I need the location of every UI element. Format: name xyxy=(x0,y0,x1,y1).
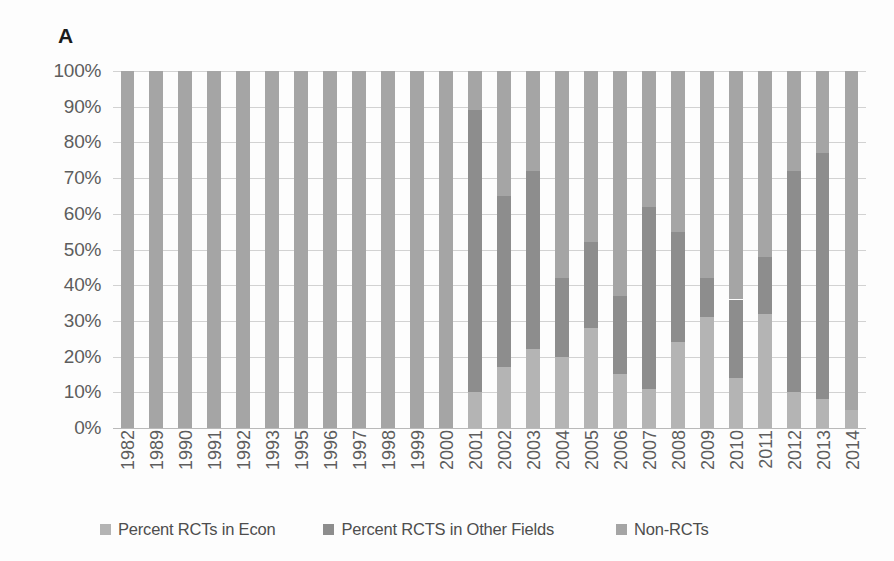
bar-column[interactable] xyxy=(410,71,424,428)
bar-segment xyxy=(497,71,511,196)
bar-column[interactable] xyxy=(207,71,221,428)
bar-series-container xyxy=(113,71,866,428)
bar-column[interactable] xyxy=(758,71,772,428)
bar-segment xyxy=(642,389,656,428)
bar-segment xyxy=(439,71,453,428)
bar-segment xyxy=(642,207,656,389)
bar-segment xyxy=(613,296,627,375)
bar-segment xyxy=(526,171,540,350)
y-axis-tick-label: 80% xyxy=(0,131,108,153)
bar-column[interactable] xyxy=(613,71,627,428)
bar-segment xyxy=(294,71,308,428)
bar-segment xyxy=(816,153,830,399)
x-axis-tick-label: 1989 xyxy=(147,430,168,470)
y-axis-tick-label: 10% xyxy=(0,381,108,403)
gridline xyxy=(113,428,866,429)
plot-area xyxy=(113,71,866,428)
bar-column[interactable] xyxy=(178,71,192,428)
bar-segment xyxy=(265,71,279,428)
bar-column[interactable] xyxy=(294,71,308,428)
bar-column[interactable] xyxy=(149,71,163,428)
bar-column[interactable] xyxy=(671,71,685,428)
bar-segment xyxy=(178,71,192,428)
x-axis-tick-label: 2001 xyxy=(466,430,487,470)
x-axis-tick-label: 1992 xyxy=(234,430,255,470)
bar-segment xyxy=(381,71,395,428)
bar-segment xyxy=(526,349,540,428)
y-axis-tick-labels: 100%90%80%70%60%50%40%30%20%10%0% xyxy=(0,0,108,561)
bar-column[interactable] xyxy=(642,71,656,428)
x-axis-tick-label: 1995 xyxy=(292,430,313,470)
x-axis-tick-label: 1996 xyxy=(321,430,342,470)
bar-segment xyxy=(729,71,743,299)
bar-column[interactable] xyxy=(845,71,859,428)
bar-segment xyxy=(410,71,424,428)
bar-column[interactable] xyxy=(468,71,482,428)
bar-column[interactable] xyxy=(121,71,135,428)
y-axis-tick-label: 20% xyxy=(0,346,108,368)
y-axis-tick-label: 90% xyxy=(0,96,108,118)
x-axis-tick-label: 2003 xyxy=(524,430,545,470)
legend-swatch-econ xyxy=(100,524,111,535)
bar-segment xyxy=(787,171,801,392)
x-axis-tick-label: 2010 xyxy=(727,430,748,470)
bar-column[interactable] xyxy=(729,71,743,428)
x-axis-tick-label: 2012 xyxy=(785,430,806,470)
y-axis-tick-label: 70% xyxy=(0,167,108,189)
y-axis-tick-label: 60% xyxy=(0,203,108,225)
bar-segment xyxy=(584,71,598,242)
legend-label: Percent RCTs in Econ xyxy=(118,520,275,539)
bar-segment xyxy=(729,378,743,428)
bar-segment xyxy=(816,399,830,428)
legend-item[interactable]: Percent RCTS in Other Fields xyxy=(323,520,554,539)
legend-item[interactable]: Non-RCTs xyxy=(616,520,709,539)
bar-segment xyxy=(787,71,801,171)
bar-column[interactable] xyxy=(700,71,714,428)
bar-column[interactable] xyxy=(555,71,569,428)
x-axis-tick-label: 2004 xyxy=(553,430,574,470)
bar-segment xyxy=(758,257,772,314)
x-axis-tick-label: 2013 xyxy=(814,430,835,470)
legend-label: Percent RCTS in Other Fields xyxy=(341,520,554,539)
bar-column[interactable] xyxy=(497,71,511,428)
x-axis-tick-label: 2000 xyxy=(437,430,458,470)
x-axis-tick-label: 1990 xyxy=(176,430,197,470)
bar-segment xyxy=(642,71,656,207)
y-axis-tick-label: 100% xyxy=(0,60,108,82)
bar-segment xyxy=(468,392,482,428)
bar-column[interactable] xyxy=(439,71,453,428)
legend-label: Non-RCTs xyxy=(634,520,709,539)
chart-legend: Percent RCTs in EconPercent RCTS in Othe… xyxy=(100,516,860,542)
legend-item[interactable]: Percent RCTs in Econ xyxy=(100,520,275,539)
legend-swatch-non xyxy=(616,524,627,535)
bar-segment xyxy=(121,71,135,428)
x-axis-tick-label: 1982 xyxy=(118,430,139,470)
x-axis-tick-label: 2011 xyxy=(756,430,777,469)
bar-segment xyxy=(584,242,598,328)
x-axis-tick-label: 1998 xyxy=(379,430,400,470)
bar-segment xyxy=(845,410,859,428)
x-axis-tick-label: 1993 xyxy=(263,430,284,470)
bar-segment xyxy=(787,392,801,428)
bar-column[interactable] xyxy=(236,71,250,428)
bar-column[interactable] xyxy=(526,71,540,428)
bar-column[interactable] xyxy=(352,71,366,428)
bar-segment xyxy=(497,196,511,367)
bar-segment xyxy=(526,71,540,171)
bar-column[interactable] xyxy=(381,71,395,428)
x-axis-tick-label: 2006 xyxy=(611,430,632,470)
bar-column[interactable] xyxy=(816,71,830,428)
bar-segment xyxy=(816,71,830,153)
bar-segment xyxy=(468,110,482,392)
bar-column[interactable] xyxy=(584,71,598,428)
bar-segment xyxy=(671,342,685,428)
bar-segment xyxy=(555,357,569,428)
x-axis-tick-label: 2014 xyxy=(843,430,864,470)
bar-column[interactable] xyxy=(787,71,801,428)
bar-segment xyxy=(468,71,482,110)
bar-column[interactable] xyxy=(323,71,337,428)
bar-segment xyxy=(700,317,714,428)
legend-swatch-other xyxy=(323,524,334,535)
bar-column[interactable] xyxy=(265,71,279,428)
figure-panel-a: A 100%90%80%70%60%50%40%30%20%10%0% 1982… xyxy=(0,0,894,561)
